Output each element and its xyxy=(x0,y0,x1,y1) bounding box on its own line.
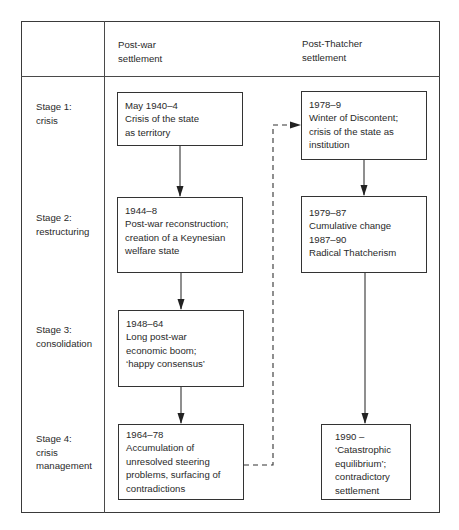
box-date: 1990 – xyxy=(335,430,410,443)
box-text: Accumulation of xyxy=(126,441,243,454)
box-date: May 1940–4 xyxy=(125,99,242,112)
column-divider xyxy=(104,21,105,513)
header-divider xyxy=(21,76,440,77)
box-text: economic boom; xyxy=(126,344,243,357)
box-text: settlement xyxy=(335,484,410,497)
post-war-box-1964: 1964–78 Accumulation of unresolved steer… xyxy=(118,424,244,500)
post-war-box-1940: May 1940–4 Crisis of the state as territ… xyxy=(117,92,243,146)
box-text: as territory xyxy=(125,126,242,139)
box-text: creation of a Keynesian xyxy=(125,231,242,244)
box-text: Long post-war xyxy=(126,330,243,343)
box-date: 1948–64 xyxy=(126,317,243,330)
box-text: unresolved steering xyxy=(126,455,243,468)
box-text: contradictions xyxy=(126,482,243,495)
box-text: problems, surfacing of xyxy=(126,468,243,481)
box-text: ‘happy consensus’ xyxy=(126,357,243,370)
box-text: institution xyxy=(309,138,426,151)
box-text: Winter of Discontent; xyxy=(309,111,426,124)
post-war-box-1944: 1944–8 Post-war reconstruction; creation… xyxy=(117,197,243,273)
stage-label-4: Stage 4: crisis management xyxy=(36,432,92,473)
post-thatcher-box-1979: 1979–87 Cumulative change 1987–90 Radica… xyxy=(301,196,427,273)
box-text: ‘Catastrophic xyxy=(335,443,410,456)
box-date: 1944–8 xyxy=(125,204,242,217)
post-war-box-1948: 1948–64 Long post-war economic boom; ‘ha… xyxy=(118,310,244,387)
box-text: Radical Thatcherism xyxy=(309,246,426,259)
box-text: equilibrium’; xyxy=(335,457,410,470)
column-header-post-thatcher: Post-Thatcher settlement xyxy=(302,37,362,64)
stage-label-1: Stage 1: crisis xyxy=(36,100,72,127)
box-date: 1979–87 xyxy=(309,206,426,219)
box-date: 1987–90 xyxy=(309,233,426,246)
box-text: welfare state xyxy=(125,244,242,257)
stage-label-2: Stage 2: restructuring xyxy=(36,211,89,238)
box-text: Post-war reconstruction; xyxy=(125,217,242,230)
box-text: contradictory xyxy=(335,470,410,483)
box-text: crisis of the state as xyxy=(309,125,426,138)
box-text: Crisis of the state xyxy=(125,112,242,125)
post-thatcher-box-1990: 1990 – ‘Catastrophic equilibrium’; contr… xyxy=(321,424,411,500)
column-header-post-war: Post-war settlement xyxy=(118,38,162,65)
box-date: 1978–9 xyxy=(309,98,426,111)
stage-label-3: Stage 3: consolidation xyxy=(36,323,92,350)
post-thatcher-box-1978: 1978–9 Winter of Discontent; crisis of t… xyxy=(301,91,427,160)
box-text: Cumulative change xyxy=(309,219,426,232)
box-date: 1964–78 xyxy=(126,428,243,441)
